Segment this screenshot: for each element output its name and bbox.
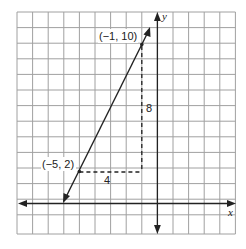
y-axis bbox=[154, 12, 161, 234]
y-axis-label: y bbox=[161, 10, 167, 22]
point-a bbox=[140, 43, 144, 47]
x-axis bbox=[18, 200, 236, 207]
point-b-label: (−5, 2) bbox=[42, 158, 74, 170]
coordinate-plane: (−1, 10) (−5, 2) 8 4 y x bbox=[0, 0, 246, 249]
x-axis-label: x bbox=[227, 206, 233, 218]
point-b bbox=[78, 170, 82, 174]
rise-label: 8 bbox=[146, 102, 152, 114]
run-label: 4 bbox=[104, 174, 110, 186]
grid bbox=[17, 12, 235, 234]
point-a-label: (−1, 10) bbox=[99, 30, 137, 42]
